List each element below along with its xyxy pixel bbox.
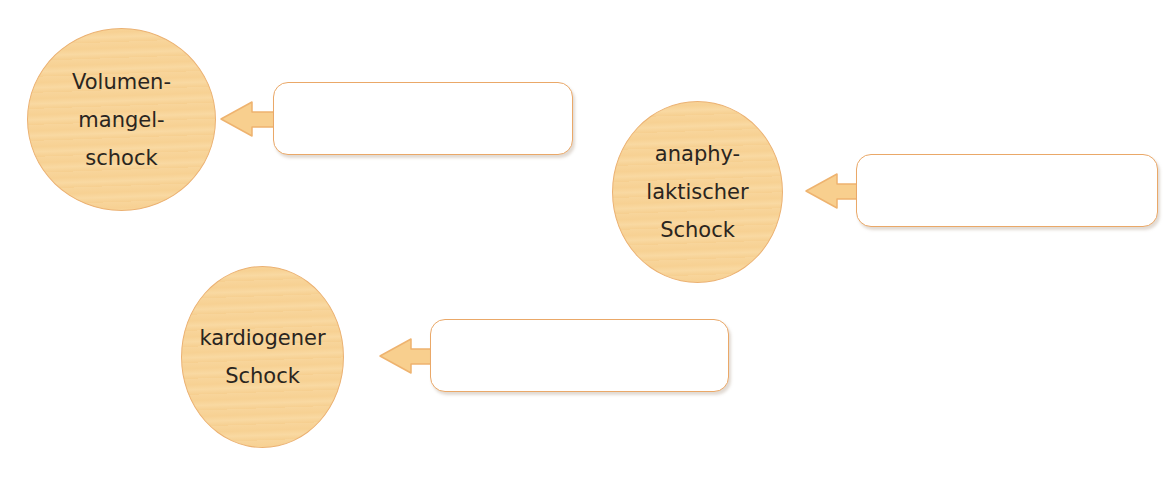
shock-type-circle-anaphylaktischer-schock: anaphy- laktischer Schock	[612, 101, 783, 283]
answer-box-anaphylaktischer-schock[interactable]	[856, 154, 1158, 227]
circle-label-line: schock	[85, 139, 157, 177]
arrow-left-icon	[374, 332, 436, 380]
shock-type-circle-kardiogener-schock: kardiogener Schock	[181, 266, 344, 448]
shock-type-circle-volumenmangelschock: Volumen- mangel- schock	[27, 28, 216, 211]
circle-label-line: laktischer	[646, 173, 748, 211]
circle-label-line: kardiogener	[199, 319, 325, 357]
arrow-left-icon	[215, 95, 277, 143]
circle-label-line: Schock	[225, 357, 300, 395]
answer-box-volumenmangelschock[interactable]	[273, 82, 573, 155]
circle-label-line: Schock	[660, 211, 735, 249]
circle-label-line: Volumen-	[72, 63, 171, 101]
circle-label-line: mangel-	[78, 101, 164, 139]
circle-label-line: anaphy-	[655, 135, 740, 173]
arrow-left-icon	[800, 167, 862, 215]
answer-box-kardiogener-schock[interactable]	[430, 319, 729, 392]
